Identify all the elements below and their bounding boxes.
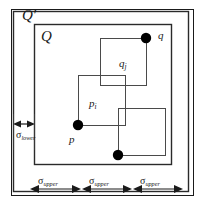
- dot-p: [73, 120, 83, 130]
- dot-q: [141, 33, 151, 43]
- dot-lower-right: [113, 150, 123, 160]
- image-frame: [12, 10, 194, 196]
- point-label-pi: pi: [89, 98, 97, 111]
- region-label-q: Q: [41, 29, 52, 44]
- point-label-p: p: [69, 134, 75, 145]
- diagram-canvas: [0, 0, 205, 204]
- region-label-q-prime: Q′: [22, 8, 36, 23]
- point-label-qj: qj: [119, 58, 127, 71]
- sigma-upper-label-1: σupper: [38, 176, 58, 187]
- sigma-lower-label: σlower: [16, 130, 36, 141]
- sigma-upper-label-2: σupper: [89, 176, 109, 187]
- region-q-box: [35, 25, 172, 165]
- figure-container: Q′ Q q qj pi p σlower σupper σupper σupp…: [0, 0, 205, 204]
- point-label-q: q: [158, 30, 164, 41]
- sigma-upper-label-3: σupper: [140, 176, 160, 187]
